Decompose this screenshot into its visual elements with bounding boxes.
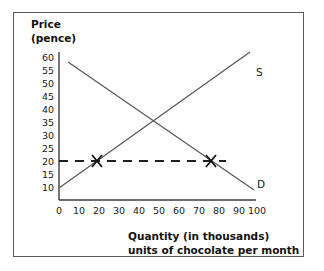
plot-area xyxy=(0,0,324,271)
demand-curve xyxy=(68,62,254,190)
supply-demand-figure: Price (pence) Quantity (in thousands) un… xyxy=(0,0,324,271)
